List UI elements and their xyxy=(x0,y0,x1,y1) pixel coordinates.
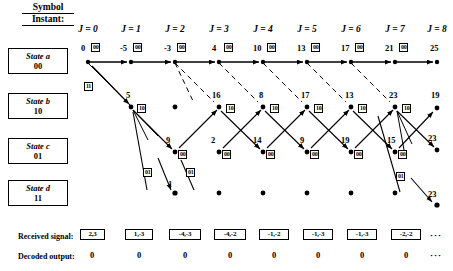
branch-label-c-1: 00 xyxy=(222,150,231,159)
metric-d-3: 1 xyxy=(168,180,172,189)
decoded-output-1: 0 xyxy=(131,250,147,260)
branch-label-a-4: 00 xyxy=(267,43,276,52)
metric-b-3: 16 xyxy=(212,91,221,100)
metric-a-6: 17 xyxy=(341,44,350,53)
metric-c-2: 9 xyxy=(166,136,170,145)
metric-b-6: 13 xyxy=(345,91,354,100)
decoded-output-0: 0 xyxy=(84,250,100,260)
branch-label-c-0: 00 xyxy=(178,150,187,159)
branch-label-a-5: 00 xyxy=(311,43,320,52)
branch-label-b-5: 10 xyxy=(402,104,411,113)
metric-a-3: 4 xyxy=(212,44,216,53)
trellis-diagram-root: Symbol Instant: J = 0 J = 1 J = 2 J = 3 … xyxy=(0,0,453,271)
received-signal-2: -4,-3 xyxy=(169,229,201,240)
received-signal-label: Received signal: xyxy=(18,232,73,241)
metric-a-8: 25 xyxy=(430,44,439,53)
received-signal-5: -1,-3 xyxy=(303,229,333,240)
metric-a-7: 21 xyxy=(385,44,394,53)
metric-a-5: 13 xyxy=(297,44,306,53)
branch-label-a-3: 00 xyxy=(224,43,233,52)
received-signal-4: -1,-2 xyxy=(259,229,289,240)
branch-label-b-0: 10 xyxy=(137,104,146,113)
trellis-nodes xyxy=(86,60,440,208)
metric-c-5: 9 xyxy=(300,136,304,145)
branch-label-d-2: 01 xyxy=(396,172,405,181)
branch-label-c-5: 00 xyxy=(398,150,407,159)
received-signal-6: -1,-3 xyxy=(347,229,377,240)
metric-a-4: 10 xyxy=(253,44,262,53)
decoded-output-4: 0 xyxy=(266,250,282,260)
metric-b-5: 17 xyxy=(301,91,310,100)
metric-a-1: -5 xyxy=(120,44,127,53)
received-signal-3: -4,-2 xyxy=(214,229,246,240)
decoded-output-ellipsis: ··· xyxy=(430,250,442,260)
decoded-output-label: Decoded output: xyxy=(18,252,75,261)
received-signal-ellipsis: ··· xyxy=(430,230,442,240)
metric-c-3: 2 xyxy=(211,136,215,145)
metric-d-8: 23 xyxy=(428,190,437,199)
decoded-output-2: 0 xyxy=(177,250,193,260)
branch-label-a-7: 00 xyxy=(399,43,408,52)
decoded-output-7: 0 xyxy=(398,250,414,260)
metric-b-4: 8 xyxy=(259,91,263,100)
metric-c-8: 23 xyxy=(428,134,437,143)
branch-label-c-2: 00 xyxy=(266,150,275,159)
branch-label-a-1: 00 xyxy=(133,43,142,52)
decoded-output-6: 0 xyxy=(354,250,370,260)
metric-b-7: 23 xyxy=(389,91,398,100)
metric-c-6: 19 xyxy=(341,136,350,145)
received-signal-7: -2,-2 xyxy=(391,229,421,240)
branch-label-b-3: 10 xyxy=(314,104,323,113)
branch-label-d-0: 01 xyxy=(143,168,152,177)
branch-label-b-2: 10 xyxy=(270,104,279,113)
metric-a-2: -3 xyxy=(164,44,171,53)
branch-label-c-4: 00 xyxy=(354,150,363,159)
decoded-output-3: 0 xyxy=(222,250,238,260)
branch-label-a-6: 00 xyxy=(355,43,364,52)
received-signal-0: 2,3 xyxy=(80,229,105,240)
metric-b-8: 19 xyxy=(431,91,440,100)
branch-label-d-1: 01 xyxy=(186,168,195,177)
branch-label-b-1: 10 xyxy=(226,104,235,113)
metric-c-7: 15 xyxy=(387,136,396,145)
branch-label-a-0: 00 xyxy=(91,43,100,52)
metric-a-0: 0 xyxy=(81,44,85,53)
branch-label-a-2: 00 xyxy=(177,43,186,52)
metric-b-1: 5 xyxy=(126,91,130,100)
branch-label-b-4: 10 xyxy=(358,104,367,113)
received-signal-1: 1,-3 xyxy=(125,229,153,240)
decoded-output-5: 0 xyxy=(310,250,326,260)
metric-c-4: 14 xyxy=(253,136,262,145)
branch-label-start-11: 11 xyxy=(84,82,93,91)
branch-label-c-3: 00 xyxy=(310,150,319,159)
